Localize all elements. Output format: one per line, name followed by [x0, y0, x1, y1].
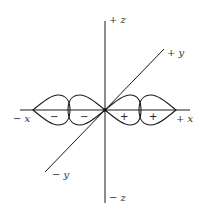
- lobe-sign-far-left: −: [50, 111, 58, 122]
- lobe-sign-far-right: +: [149, 111, 157, 122]
- origin-point: [103, 108, 107, 112]
- label-x-neg: − x: [13, 113, 31, 124]
- orbital-diagram: − − + + + z − z + y − y − x + x: [0, 0, 204, 211]
- label-z-pos: + z: [109, 14, 127, 25]
- label-y-pos: + y: [167, 47, 185, 58]
- label-x-pos: + x: [176, 113, 194, 124]
- lobe-sign-near-right: +: [120, 111, 128, 122]
- label-z-neg: − z: [109, 192, 127, 203]
- label-y-neg: − y: [52, 169, 70, 180]
- lobe-sign-near-left: −: [80, 111, 88, 122]
